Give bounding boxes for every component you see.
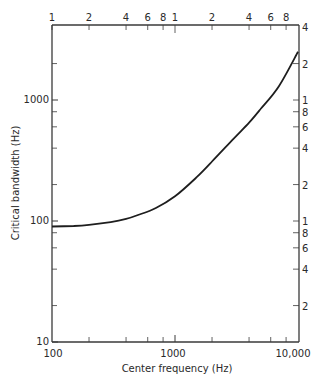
top-axis-label: 4 xyxy=(123,12,129,23)
top-axis-label: 4 xyxy=(246,12,252,23)
top-axis-label: 8 xyxy=(160,12,166,23)
right-axis-label: 1 xyxy=(302,95,308,106)
right-axis-label: 8 xyxy=(302,228,308,239)
right-axis-label: 6 xyxy=(302,122,308,133)
right-axis-label: 2 xyxy=(302,180,308,191)
right-axis-label: 2 xyxy=(302,59,308,70)
top-axis-label: 1 xyxy=(172,12,178,23)
right-axis-labels: 421864218642 xyxy=(302,22,308,311)
x-tick-label-10000: 10,000 xyxy=(276,348,311,359)
y-tick-label-1000: 1000 xyxy=(24,94,49,105)
top-axis-labels: 1246812468 xyxy=(49,12,289,23)
x-tick-label-1000: 1000 xyxy=(160,348,185,359)
right-axis-label: 4 xyxy=(302,143,308,154)
right-axis-label: 6 xyxy=(302,243,308,254)
right-axis-label: 1 xyxy=(302,216,308,227)
right-axis-label: 2 xyxy=(302,301,308,312)
right-axis-label: 8 xyxy=(302,107,308,118)
top-axis-label: 6 xyxy=(268,12,274,23)
y-tick-label-10: 10 xyxy=(36,336,49,347)
right-axis-label: 4 xyxy=(302,264,308,275)
top-axis-label: 8 xyxy=(283,12,289,23)
top-axis-label: 1 xyxy=(49,12,55,23)
critical-bandwidth-curve xyxy=(52,52,298,227)
right-axis-label: 4 xyxy=(302,22,308,33)
plot-area xyxy=(52,25,299,342)
x-axis-title: Center frequency (Hz) xyxy=(122,363,233,374)
y-axis-title: Critical bandwidth (Hz) xyxy=(10,126,21,241)
top-axis-label: 2 xyxy=(209,12,215,23)
top-axis-label: 2 xyxy=(86,12,92,23)
top-axis-label: 6 xyxy=(145,12,151,23)
y-tick-label-100: 100 xyxy=(30,215,49,226)
x-tick-label-100: 100 xyxy=(43,348,62,359)
chart-canvas: 10 100 1000 100 1000 10,000 Center frequ… xyxy=(0,0,315,379)
